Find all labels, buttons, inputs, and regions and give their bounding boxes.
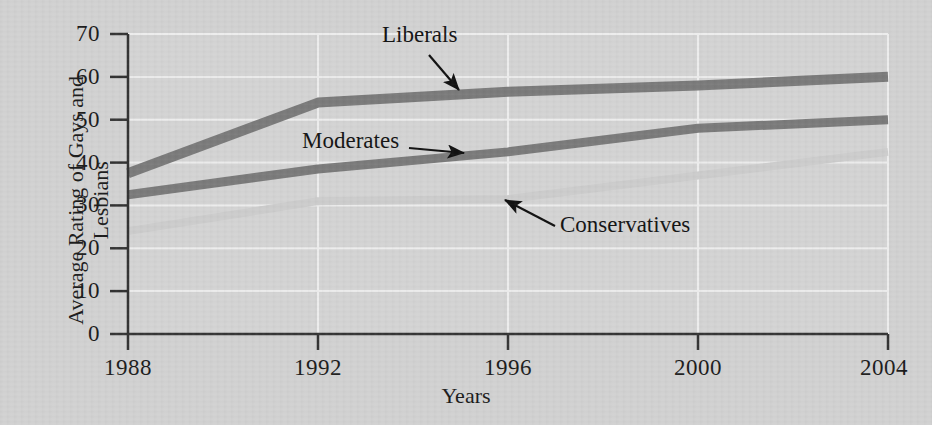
x-axis-ticks: [128, 334, 888, 350]
x-tick-label-1988: 1988: [104, 355, 152, 381]
x-tick-label-1992: 1992: [294, 355, 342, 381]
x-tick-label-2004: 2004: [860, 355, 908, 381]
annotation-label-moderates: Moderates: [302, 128, 399, 154]
annotation-label-liberals: Liberals: [382, 22, 457, 48]
x-tick-label-1996: 1996: [484, 355, 532, 381]
x-tick-label-2000: 2000: [674, 355, 722, 381]
x-axis-title: Years: [0, 383, 932, 409]
annotation-label-conservatives: Conservatives: [560, 212, 690, 238]
y-tick-label-70: 70: [52, 21, 100, 47]
chart-figure: 70 60 50 40 30 20 10 0 1988 1992 1996 20…: [0, 0, 932, 425]
y-axis-title: Average Rating of Gays and Lesbians: [63, 50, 114, 350]
